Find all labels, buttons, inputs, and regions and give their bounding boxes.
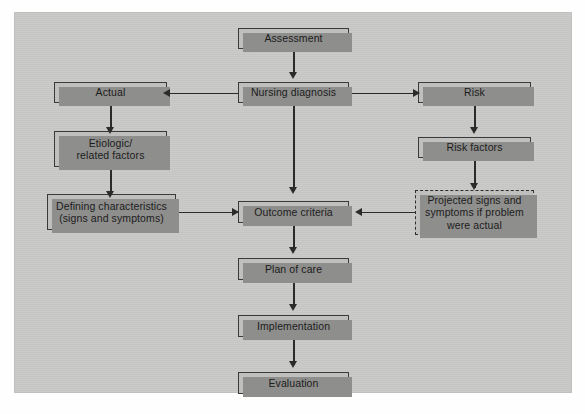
node-actual-label: Actual: [96, 86, 126, 99]
node-assessment[interactable]: Assessment: [238, 28, 349, 49]
arrowhead-outcome-top: [289, 187, 297, 194]
node-actual[interactable]: Actual: [54, 82, 167, 103]
node-implementation-label: Implementation: [257, 320, 330, 333]
node-implementation[interactable]: Implementation: [238, 315, 349, 337]
node-plan-of-care[interactable]: Plan of care: [238, 258, 349, 280]
node-evaluation-label: Evaluation: [268, 377, 318, 390]
arrowhead-evaluation-top: [289, 361, 297, 368]
edge-nursing-diagnosis-to-risk: [349, 93, 419, 95]
node-etiologic-related-factors-label: Etiologic/ related factors: [76, 137, 144, 162]
node-outcome-criteria-label: Outcome criteria: [254, 206, 333, 219]
arrowhead-risk-left: [413, 89, 420, 97]
arrowhead-outcome-left: [232, 208, 239, 216]
node-risk-label: Risk: [464, 86, 485, 99]
node-risk-factors[interactable]: Risk factors: [418, 137, 531, 158]
arrowhead-nursing-diagnosis-top: [289, 72, 297, 79]
arrowhead-actual-right: [163, 89, 170, 97]
node-outcome-criteria[interactable]: Outcome criteria: [238, 201, 349, 223]
edge-nursing-diagnosis-to-outcome: [293, 103, 295, 191]
node-nursing-diagnosis-label: Nursing diagnosis: [251, 86, 336, 99]
node-nursing-diagnosis[interactable]: Nursing diagnosis: [238, 82, 349, 103]
arrowhead-outcome-right: [355, 208, 362, 216]
node-defining-characteristics[interactable]: Defining characteristics (signs and symp…: [47, 194, 176, 230]
arrowhead-risk-factors-top: [470, 127, 478, 134]
figure-root: Assessment Nursing diagnosis Actual Etio…: [0, 0, 585, 414]
node-projected-signs-symptoms[interactable]: Projected signs and symptoms if problem …: [415, 190, 534, 235]
edge-nursing-diagnosis-to-actual: [167, 93, 238, 95]
node-projected-signs-symptoms-label: Projected signs and symptoms if problem …: [425, 194, 524, 232]
node-evaluation[interactable]: Evaluation: [238, 372, 349, 394]
edge-projected-to-outcome: [359, 212, 415, 214]
arrowhead-plan-top: [289, 247, 297, 254]
node-assessment-label: Assessment: [264, 32, 322, 45]
node-etiologic-related-factors[interactable]: Etiologic/ related factors: [54, 131, 167, 167]
arrowhead-etiologic-top: [106, 127, 114, 134]
node-risk[interactable]: Risk: [418, 82, 531, 103]
arrowhead-implementation-top: [289, 304, 297, 311]
node-defining-characteristics-label: Defining characteristics (signs and symp…: [56, 200, 167, 225]
edge-defining-to-outcome: [176, 212, 238, 214]
node-plan-of-care-label: Plan of care: [265, 263, 322, 276]
edge-assessment-to-nursing-diagnosis: [293, 49, 295, 74]
arrowhead-projected-top: [470, 183, 478, 190]
node-risk-factors-label: Risk factors: [446, 141, 502, 154]
diagram-canvas: Assessment Nursing diagnosis Actual Etio…: [14, 12, 572, 393]
arrowhead-defining-top: [106, 191, 114, 198]
